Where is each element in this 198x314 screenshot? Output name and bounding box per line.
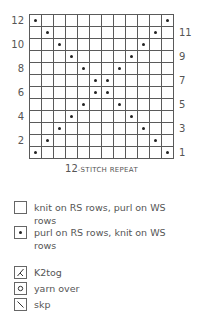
knit-stitch-cell: [162, 63, 174, 75]
knit-stitch-cell: [78, 87, 90, 99]
purl-stitch-cell: [30, 147, 42, 159]
knit-stitch-cell: [138, 15, 150, 27]
legend-item-skp: skp: [14, 298, 194, 314]
knit-stitch-cell: [126, 99, 138, 111]
knit-stitch-cell: [78, 123, 90, 135]
knit-stitch-cell: [30, 111, 42, 123]
knit-stitch-cell: [162, 111, 174, 123]
row-number-8: 8: [6, 63, 24, 75]
purl-stitch-cell: [150, 135, 162, 147]
knit-stitch-cell: [78, 111, 90, 123]
knit-stitch-cell: [54, 75, 66, 87]
knit-stitch-cell: [126, 27, 138, 39]
legend-item-knit: knit on RS rows, purl on WS rows: [14, 201, 194, 226]
knit-stitch-cell: [42, 75, 54, 87]
knit-stitch-cell: [30, 99, 42, 111]
knit-stitch-cell: [78, 39, 90, 51]
stitch-chart-grid: [29, 14, 174, 159]
legend-label-purl: purl on RS rows, knit on WS rows: [34, 226, 184, 252]
legend-label-yarn-over: yarn over: [34, 282, 184, 295]
knit-stitch-cell: [90, 123, 102, 135]
purl-stitch-cell: [162, 15, 174, 27]
knit-stitch-cell: [42, 51, 54, 63]
knit-stitch-cell: [54, 87, 66, 99]
knit-stitch-cell: [138, 147, 150, 159]
knit-stitch-cell: [66, 63, 78, 75]
purl-stitch-cell: [90, 87, 102, 99]
purl-stitch-cell: [30, 15, 42, 27]
knit-stitch-cell: [162, 123, 174, 135]
knit-stitch-cell: [150, 99, 162, 111]
knit-stitch-cell: [150, 63, 162, 75]
knit-stitch-cell: [150, 111, 162, 123]
knit-stitch-cell: [42, 147, 54, 159]
knit-stitch-cell: [138, 99, 150, 111]
knit-stitch-cell: [78, 27, 90, 39]
chart-caption: 12-STITCH REPEAT: [29, 163, 174, 174]
legend-item-purl: purl on RS rows, knit on WS rows: [14, 226, 194, 266]
row-number-5: 5: [179, 99, 197, 111]
knit-stitch-cell: [66, 123, 78, 135]
caption-number: 12: [65, 163, 78, 174]
knit-stitch-cell: [102, 135, 114, 147]
knit-stitch-cell: [102, 15, 114, 27]
knit-stitch-cell: [102, 111, 114, 123]
legend-item-yarn-over: yarn over: [14, 282, 194, 298]
knit-stitch-cell: [162, 135, 174, 147]
row-number-6: 6: [6, 87, 24, 99]
purl-stitch-cell: [42, 135, 54, 147]
knit-stitch-cell: [162, 87, 174, 99]
purl-stitch-cell: [126, 111, 138, 123]
purl-stitch-cell: [114, 63, 126, 75]
knit-stitch-cell: [66, 15, 78, 27]
knit-stitch-cell: [90, 15, 102, 27]
knit-stitch-cell: [114, 123, 126, 135]
purl-stitch-cell: [90, 75, 102, 87]
knit-stitch-cell: [42, 99, 54, 111]
knit-stitch-cell: [114, 111, 126, 123]
knit-stitch-cell: [150, 87, 162, 99]
knit-stitch-cell: [150, 75, 162, 87]
knit-stitch-cell: [114, 51, 126, 63]
knit-stitch-cell: [114, 39, 126, 51]
row-number-12: 12: [6, 15, 24, 27]
knit-stitch-cell: [54, 51, 66, 63]
knit-stitch-cell: [102, 99, 114, 111]
purl-stitch-cell: [150, 27, 162, 39]
purl-stitch-cell: [102, 87, 114, 99]
row-number-3: 3: [179, 123, 197, 135]
knit-stitch-cell: [30, 135, 42, 147]
knit-stitch-cell: [162, 27, 174, 39]
knit-stitch-cell: [138, 135, 150, 147]
knit-stitch-cell: [114, 75, 126, 87]
knit-stitch-cell: [138, 63, 150, 75]
knit-stitch-cell: [54, 99, 66, 111]
knit-stitch-cell: [66, 75, 78, 87]
knit-stitch-cell: [102, 51, 114, 63]
knit-stitch-cell: [42, 87, 54, 99]
knit-stitch-cell: [54, 135, 66, 147]
knit-stitch-cell: [150, 123, 162, 135]
knit-stitch-cell: [138, 75, 150, 87]
knit-stitch-cell: [114, 87, 126, 99]
knit-stitch-cell: [78, 147, 90, 159]
knit-stitch-cell: [126, 123, 138, 135]
knit-stitch-cell: [126, 75, 138, 87]
knit-stitch-cell: [150, 15, 162, 27]
knit-stitch-cell: [90, 39, 102, 51]
knit-stitch-cell: [126, 135, 138, 147]
knit-stitch-cell: [162, 99, 174, 111]
dot-square-icon: [14, 226, 27, 239]
knit-stitch-cell: [30, 63, 42, 75]
knit-stitch-cell: [90, 135, 102, 147]
knit-stitch-cell: [138, 27, 150, 39]
knit-stitch-cell: [114, 135, 126, 147]
chart-legend: knit on RS rows, purl on WS rows purl on…: [14, 201, 194, 314]
purl-stitch-cell: [138, 39, 150, 51]
purl-stitch-cell: [66, 51, 78, 63]
knit-stitch-cell: [90, 51, 102, 63]
knit-stitch-cell: [66, 135, 78, 147]
knit-stitch-cell: [30, 87, 42, 99]
purl-stitch-cell: [66, 111, 78, 123]
purl-stitch-cell: [126, 51, 138, 63]
